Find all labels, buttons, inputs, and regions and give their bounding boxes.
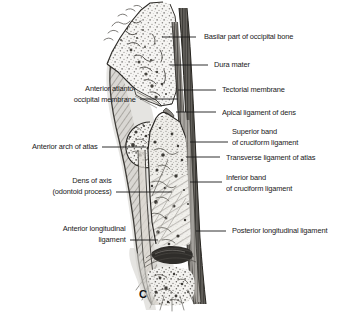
label-posterior-longitudinal-ligament: Posterior longitudinal ligament	[232, 226, 327, 237]
label-line: of cruciform ligament	[226, 184, 292, 195]
label-transverse-ligament-of-atlas: Transverse ligament of atlas	[226, 153, 315, 164]
label-line: occipital membrane	[74, 95, 136, 106]
label-tectorial-membrane: Tectorial membrane	[222, 85, 285, 96]
figure-panel: Anterior atlanto-occipital membraneAnter…	[0, 0, 363, 312]
label-line: Tectorial membrane	[222, 85, 285, 96]
label-dura-mater: Dura mater	[214, 60, 250, 71]
label-inferior-band-of-cruciform-ligament: Inferior bandof cruciform ligament	[226, 173, 292, 194]
label-line: Anterior atlanto-	[74, 84, 136, 95]
label-line: (odontoid process)	[53, 187, 112, 198]
label-line: Inferior band	[226, 173, 292, 184]
label-line: Dens of axis	[53, 176, 112, 187]
label-line: Basilar part of occipital bone	[204, 32, 293, 43]
label-line: Superior band	[232, 127, 298, 138]
label-apical-ligament-of-dens: Apical ligament of dens	[222, 108, 296, 119]
label-line: of cruciform ligament	[232, 138, 298, 149]
label-anterior-arch-of-atlas: Anterior arch of atlas	[32, 142, 98, 153]
label-line: Posterior longitudinal ligament	[232, 226, 327, 237]
label-anterior-atlanto-occipital-membrane: Anterior atlanto-occipital membrane	[74, 84, 136, 105]
label-basilar-part-of-occipital-bone: Basilar part of occipital bone	[204, 32, 293, 43]
figure-panel-label: C	[139, 288, 147, 300]
label-superior-band-of-cruciform-ligament: Superior bandof cruciform ligament	[232, 127, 298, 148]
label-dens-of-axis: Dens of axis(odontoid process)	[53, 176, 112, 197]
label-line: ligament	[63, 235, 126, 246]
label-line: Anterior arch of atlas	[32, 142, 98, 153]
label-anterior-longitudinal-ligament: Anterior longitudinalligament	[63, 224, 126, 245]
label-line: Transverse ligament of atlas	[226, 153, 315, 164]
label-line: Anterior longitudinal	[63, 224, 126, 235]
label-line: Apical ligament of dens	[222, 108, 296, 119]
label-line: Dura mater	[214, 60, 250, 71]
